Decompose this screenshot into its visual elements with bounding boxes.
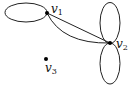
vertex-v2 — [108, 41, 112, 45]
vertex-v1 — [45, 11, 49, 15]
vertex-label-v2: v2 — [116, 37, 128, 52]
vertex-label-v1: v1 — [51, 2, 63, 17]
graph-diagram: v1 v2 v3 — [0, 0, 129, 88]
vertex-label-v3: v3 — [45, 61, 57, 76]
loop-edge-v1 — [5, 3, 47, 22]
